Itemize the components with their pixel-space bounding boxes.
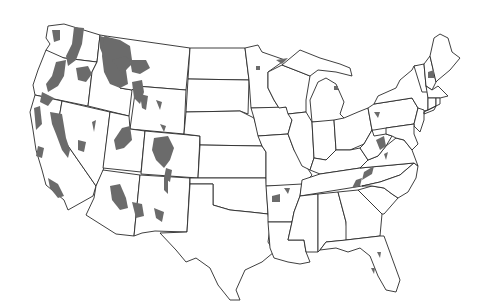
state-fl: [320, 236, 400, 292]
state-ma: [426, 86, 448, 98]
state-mi-lower: [310, 78, 346, 122]
state-nm: [134, 175, 190, 236]
state-ks: [198, 145, 266, 178]
state-ia: [251, 107, 292, 136]
state-sd: [186, 79, 249, 114]
state-outlines: [30, 24, 460, 300]
state-me: [430, 34, 460, 82]
state-ri: [436, 98, 440, 106]
map-canvas: [0, 0, 483, 307]
state-nd: [188, 48, 249, 80]
us-map: [0, 0, 483, 307]
